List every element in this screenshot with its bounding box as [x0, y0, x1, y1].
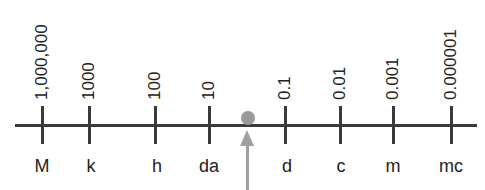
- prefix-label-micro: mc: [439, 156, 463, 177]
- value-label-milli: 0.001: [384, 57, 401, 100]
- tick-deci: [284, 106, 287, 144]
- value-label-hecto: 100: [146, 72, 163, 100]
- value-label-centi: 0.01: [331, 67, 348, 100]
- tick-mega: [41, 106, 44, 144]
- value-label-deka: 10: [200, 81, 217, 100]
- prefix-label-mega: M: [35, 156, 50, 177]
- arrow-shaft: [246, 140, 249, 190]
- tick-hecto: [154, 106, 157, 144]
- prefix-label-hecto: h: [152, 156, 162, 177]
- prefix-label-milli: m: [386, 156, 401, 177]
- prefix-label-deci: d: [282, 156, 292, 177]
- base-unit-dot-icon: [241, 111, 255, 125]
- prefix-label-kilo: k: [87, 156, 96, 177]
- value-label-micro: 0.000001: [442, 29, 459, 100]
- tick-milli: [392, 106, 395, 144]
- value-label-kilo: 1000: [80, 62, 97, 100]
- tick-micro: [450, 106, 453, 144]
- tick-kilo: [88, 106, 91, 144]
- prefix-label-centi: c: [337, 156, 346, 177]
- tick-centi: [339, 106, 342, 144]
- tick-deka: [208, 106, 211, 144]
- value-label-deci: 0.1: [276, 76, 293, 100]
- value-label-mega: 1,000,000: [33, 24, 50, 100]
- prefix-label-deka: da: [199, 156, 219, 177]
